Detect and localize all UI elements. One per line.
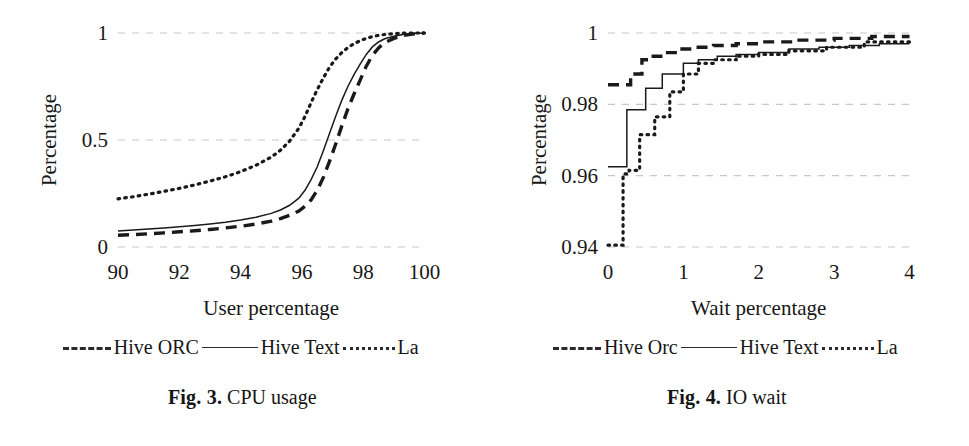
legend-entry-hive-orc: Hive Orc: [553, 336, 681, 359]
y-tick-label-1: 0.96: [561, 164, 598, 188]
legend-label-la: La: [874, 336, 901, 359]
x-tick-label-3: 96: [291, 260, 312, 284]
legend-entry-hive-text: Hive Text: [681, 336, 822, 359]
series-line-hive-text: [118, 33, 425, 231]
legend-swatch-dashed-icon: [63, 341, 111, 353]
figure-fig3: 00.519092949698100PercentageUser percent…: [0, 0, 485, 446]
y-tick-label-0: 0.94: [561, 235, 598, 259]
legend-label-hive-text: Hive Text: [737, 336, 822, 359]
x-tick-label-5: 100: [409, 260, 441, 284]
x-tick-label-2: 94: [230, 260, 252, 284]
x-tick-label-1: 1: [678, 260, 689, 284]
caption-fig3: Fig. 3. CPU usage: [0, 386, 485, 409]
y-tick-label-0: 0: [98, 235, 109, 259]
legend-swatch-solid-icon: [202, 341, 258, 353]
series-line-hive-text: [608, 44, 910, 167]
plot-area-fig4: 0.940.960.98101234PercentageWait percent…: [485, 0, 969, 320]
caption-number-fig4: Fig. 4.: [667, 386, 721, 408]
caption-fig4: Fig. 4. IO wait: [485, 386, 969, 409]
chart-canvas-fig3: 00.519092949698100PercentageUser percent…: [0, 0, 485, 320]
y-tick-label-3: 1: [587, 21, 598, 45]
legend-swatch-dashed-icon: [553, 341, 601, 353]
y-tick-label-2: 0.98: [561, 92, 598, 116]
x-tick-label-0: 0: [602, 260, 613, 284]
legend-entry-hive-text: Hive Text: [202, 336, 343, 359]
legend-label-hive-orc: Hive ORC: [111, 336, 202, 359]
figure-row: 00.519092949698100PercentageUser percent…: [0, 0, 969, 446]
y-axis-title: Percentage: [527, 94, 551, 186]
series-line-hive-orc: [118, 33, 425, 235]
legend-swatch-dotted-icon: [343, 341, 395, 353]
legend-fig3: Hive ORC Hive Text La: [0, 326, 485, 368]
caption-text-fig4: IO wait: [726, 386, 787, 408]
plot-area-fig3: 00.519092949698100PercentageUser percent…: [0, 0, 485, 320]
y-tick-label-2: 1: [98, 21, 109, 45]
legend-swatch-solid-icon: [681, 341, 737, 353]
x-tick-label-4: 98: [353, 260, 374, 284]
x-tick-label-4: 4: [904, 260, 915, 284]
x-tick-label-0: 90: [108, 260, 129, 284]
chart-canvas-fig4: 0.940.960.98101234PercentageWait percent…: [485, 0, 969, 320]
x-axis-title: User percentage: [203, 296, 339, 320]
series-line-la: [118, 33, 425, 199]
legend-label-hive-orc: Hive Orc: [601, 336, 681, 359]
legend-swatch-dotted-icon: [822, 341, 874, 353]
x-tick-label-3: 3: [828, 260, 839, 284]
legend-label-la: La: [395, 336, 422, 359]
legend-label-hive-text: Hive Text: [258, 336, 343, 359]
y-tick-label-1: 0.5: [82, 128, 108, 152]
figure-fig4: 0.940.960.98101234PercentageWait percent…: [485, 0, 969, 446]
legend-entry-hive-orc: Hive ORC: [63, 336, 202, 359]
y-axis-title: Percentage: [37, 94, 61, 186]
x-tick-label-1: 92: [169, 260, 190, 284]
series-line-la: [608, 42, 910, 245]
legend-entry-la: La: [822, 336, 901, 359]
legend-entry-la: La: [343, 336, 422, 359]
caption-number-fig3: Fig. 3.: [168, 386, 222, 408]
x-tick-label-2: 2: [753, 260, 764, 284]
x-axis-title: Wait percentage: [691, 296, 826, 320]
legend-fig4: Hive Orc Hive Text La: [485, 326, 969, 368]
caption-text-fig3: CPU usage: [227, 386, 316, 408]
